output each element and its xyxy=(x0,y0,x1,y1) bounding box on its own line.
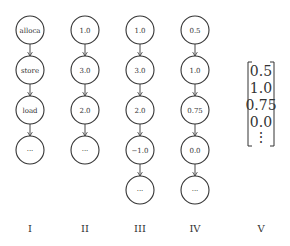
node-label: ··· xyxy=(137,187,144,195)
vector-entry: 0.75 xyxy=(245,97,276,113)
column-label: I xyxy=(28,223,32,234)
node-label: −1.0 xyxy=(132,147,149,155)
node-label: 0.75 xyxy=(187,107,203,115)
node-label: 1.0 xyxy=(134,27,145,35)
node-label: 1.0 xyxy=(189,67,200,75)
vector-entry: 0.5 xyxy=(250,63,272,79)
column-label: III xyxy=(134,223,146,234)
vector-entry: ⋮ xyxy=(254,129,268,145)
node-label: store xyxy=(21,67,39,75)
column-iii: 1.0 3.0 2.0 −1.0 ··· III xyxy=(126,16,154,234)
node-label: ··· xyxy=(82,147,89,155)
node-label: 0.0 xyxy=(189,147,200,155)
column-label: IV xyxy=(189,223,201,234)
node-label: 3.0 xyxy=(134,67,145,75)
column-label: II xyxy=(81,223,89,234)
vector-entry: 1.0 xyxy=(250,80,272,96)
node-label: 2.0 xyxy=(79,107,90,115)
column-label: V xyxy=(256,223,265,234)
node-label: 1.0 xyxy=(79,27,90,35)
column-i: alloca store load ··· I xyxy=(16,16,44,234)
vector-entry: 0.0 xyxy=(250,114,272,130)
node-label: ··· xyxy=(192,187,199,195)
node-label: 0.5 xyxy=(189,27,200,35)
column-ii: 1.0 3.0 2.0 ··· II xyxy=(71,16,99,234)
diagram-canvas: alloca store load ··· I 1.0 3.0 2.0 ··· … xyxy=(0,0,290,246)
node-label: 2.0 xyxy=(134,107,145,115)
vector-v: 0.5 1.0 0.75 0.0 ⋮ V xyxy=(245,62,276,234)
node-label: alloca xyxy=(20,27,41,35)
node-label: 3.0 xyxy=(79,67,90,75)
column-iv: 0.5 1.0 0.75 0.0 ··· IV xyxy=(181,16,209,234)
node-label: ··· xyxy=(27,147,34,155)
node-label: load xyxy=(22,107,38,115)
